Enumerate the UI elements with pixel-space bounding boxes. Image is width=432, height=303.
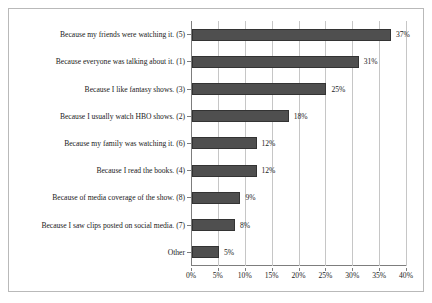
x-tick-label: 20% bbox=[292, 271, 306, 280]
category-label: Because my family was watching it. (6) bbox=[9, 139, 185, 148]
bar-value-label: 5% bbox=[224, 248, 234, 257]
category-label: Because I like fantasy shows. (3) bbox=[9, 85, 185, 94]
y-tick-mark bbox=[187, 34, 191, 35]
bar-row: Other5% bbox=[9, 239, 425, 266]
x-tick-label: 25% bbox=[318, 271, 332, 280]
bar-value-label: 37% bbox=[396, 30, 410, 39]
bar-value-label: 12% bbox=[262, 166, 276, 175]
bar-row: Because I read the books. (4)12% bbox=[9, 157, 425, 184]
bar bbox=[192, 165, 257, 177]
x-tick-label: 35% bbox=[372, 271, 386, 280]
bar-value-label: 18% bbox=[294, 112, 308, 121]
y-tick-mark bbox=[187, 89, 191, 90]
x-axis: 0%5%10%15%20%25%30%35%40% bbox=[191, 268, 406, 282]
category-label: Because my friends were watching it. (5) bbox=[9, 30, 185, 39]
y-tick-mark bbox=[187, 143, 191, 144]
category-label: Because I usually watch HBO shows. (2) bbox=[9, 112, 185, 121]
y-tick-mark bbox=[187, 116, 191, 117]
bar-row: Because of media coverage of the show. (… bbox=[9, 184, 425, 211]
category-label: Because of media coverage of the show. (… bbox=[9, 193, 185, 202]
bar-row: Because I saw clips posted on social med… bbox=[9, 212, 425, 239]
bar-row: Because I usually watch HBO shows. (2)18… bbox=[9, 103, 425, 130]
bar bbox=[192, 246, 219, 258]
bar-value-label: 25% bbox=[331, 85, 345, 94]
bar bbox=[192, 137, 257, 149]
y-tick-mark bbox=[187, 61, 191, 62]
y-tick-mark bbox=[187, 170, 191, 171]
y-tick-mark bbox=[187, 225, 191, 226]
x-tick-label: 5% bbox=[213, 271, 223, 280]
x-tick-label: 0% bbox=[186, 271, 196, 280]
bar bbox=[192, 56, 359, 68]
bar-value-label: 31% bbox=[364, 57, 378, 66]
bar bbox=[192, 29, 391, 41]
chart-figure: Because my friends were watching it. (5)… bbox=[8, 8, 424, 292]
category-label: Other bbox=[9, 248, 185, 257]
bar-row: Because I like fantasy shows. (3)25% bbox=[9, 75, 425, 102]
bar-value-label: 8% bbox=[240, 221, 250, 230]
x-tick-label: 10% bbox=[238, 271, 252, 280]
bar-rows: Because my friends were watching it. (5)… bbox=[9, 21, 425, 266]
bar bbox=[192, 219, 235, 231]
bar-row: Because my family was watching it. (6)12… bbox=[9, 130, 425, 157]
bar bbox=[192, 110, 289, 122]
x-tick-label: 30% bbox=[345, 271, 359, 280]
bar-value-label: 9% bbox=[245, 193, 255, 202]
bar-value-label: 12% bbox=[262, 139, 276, 148]
category-label: Because I saw clips posted on social med… bbox=[9, 221, 185, 230]
x-tick-label: 40% bbox=[399, 271, 413, 280]
bar bbox=[192, 192, 240, 204]
category-label: Because everyone was talking about it. (… bbox=[9, 57, 185, 66]
category-label: Because I read the books. (4) bbox=[9, 166, 185, 175]
x-tick-label: 15% bbox=[265, 271, 279, 280]
bar bbox=[192, 83, 326, 95]
bar-row: Because my friends were watching it. (5)… bbox=[9, 21, 425, 48]
y-tick-mark bbox=[187, 197, 191, 198]
bar-row: Because everyone was talking about it. (… bbox=[9, 48, 425, 75]
y-tick-mark bbox=[187, 252, 191, 253]
